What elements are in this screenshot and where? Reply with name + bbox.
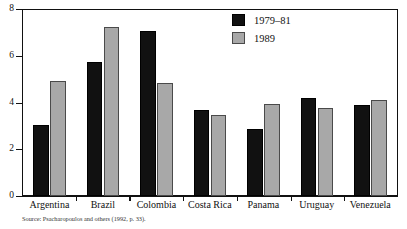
bar-uruguay-series-2 — [318, 108, 334, 196]
legend-label-1989: 1989 — [254, 33, 275, 44]
legend: 1979–81 1989 — [232, 14, 291, 50]
x-tick-label-panama: Panama — [247, 199, 279, 211]
x-tick-label-argentina: Argentina — [30, 199, 70, 211]
x-tick-label-uruguay: Uruguay — [299, 199, 334, 211]
bar-colombia-series-2 — [157, 83, 173, 196]
bar-venezuela-series-2 — [371, 100, 387, 196]
bar-argentina-series-2 — [50, 81, 66, 196]
legend-label-1979-81: 1979–81 — [254, 15, 291, 26]
bar-venezuela-series-1 — [354, 105, 370, 196]
x-tick-label-costa-rica: Costa Rica — [188, 199, 232, 211]
legend-item-1979-81: 1979–81 — [232, 14, 291, 26]
x-tick-label-brazil: Brazil — [91, 199, 115, 211]
bar-panama-series-2 — [264, 104, 280, 196]
bar-chart-figure: 8 6 4 2 0 ArgentinaBrazilColombiaCosta R… — [0, 0, 407, 229]
bar-colombia-series-1 — [140, 31, 156, 196]
bar-brazil-series-2 — [104, 27, 120, 196]
source-note: Source: Psacharopoulos and others (1992,… — [22, 215, 146, 222]
bar-brazil-series-1 — [87, 62, 103, 196]
x-tick-label-colombia: Colombia — [137, 199, 176, 211]
bars-layer — [0, 0, 407, 229]
legend-item-1989: 1989 — [232, 32, 291, 44]
bar-uruguay-series-1 — [301, 98, 317, 196]
legend-swatch-icon-1989 — [232, 32, 245, 44]
bar-costa-rica-series-2 — [211, 115, 227, 196]
legend-swatch-icon-1979-81 — [232, 14, 245, 26]
bar-argentina-series-1 — [33, 125, 49, 196]
bar-panama-series-1 — [247, 129, 263, 196]
x-tick-label-venezuela: Venezuela — [350, 199, 391, 211]
bar-costa-rica-series-1 — [194, 110, 210, 196]
